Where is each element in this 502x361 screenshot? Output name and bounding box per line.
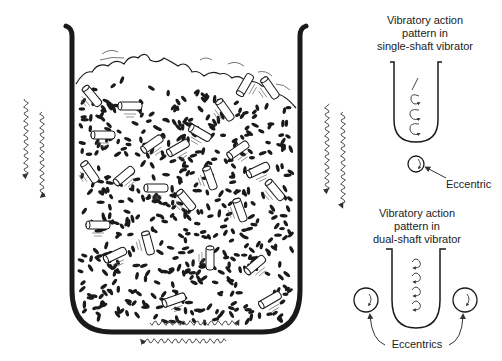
dual-shaft-bin [386, 249, 446, 328]
single-shaft-title: Vibratory action pattern in single-shaft… [370, 14, 480, 53]
single-shaft-bin [390, 62, 442, 142]
eccentric-single [408, 156, 446, 178]
eccentric-label: Eccentric [446, 178, 502, 191]
dual-shaft-motion-pattern [412, 259, 420, 310]
vibration-waves-right [325, 104, 346, 206]
eccentric-dual-right [453, 288, 477, 312]
eccentrics-label: Eccentrics [385, 338, 449, 351]
diagram-canvas [0, 0, 502, 361]
single-shaft-motion-pattern [410, 78, 419, 135]
eccentric-dual-left [354, 288, 378, 312]
dual-shaft-title: Vibratory action pattern in dual-shaft v… [362, 207, 472, 246]
vibration-waves-left [24, 99, 45, 196]
